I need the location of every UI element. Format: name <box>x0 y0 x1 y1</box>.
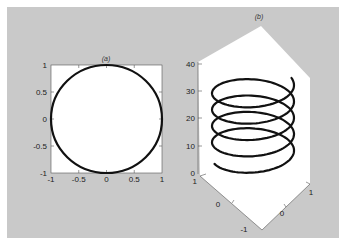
plot-a-xtick: -0.5 <box>72 175 86 184</box>
plot-b: (b) 40 30 20 10 0 1 0 -1 0 1 <box>186 13 314 234</box>
plot-a-xtick: -1 <box>47 175 55 184</box>
plot-b-xtick: 1 <box>309 188 314 197</box>
plot-a-ytick: 0.5 <box>36 88 48 97</box>
plot-b-title: (b) <box>255 13 264 21</box>
plot-b-ytick: 1 <box>193 177 198 186</box>
plot-b-ztick: 40 <box>186 60 195 69</box>
plot-a-ytick: -0.5 <box>33 142 47 151</box>
figure-canvas: (a) 1 0.5 0 -0.5 -1 -1 -0.5 0 0.5 1 (b) <box>0 0 344 242</box>
plot-b-ztick: 20 <box>186 114 195 123</box>
plot-a-ytick: -1 <box>40 169 48 178</box>
plot-a-xtick: 0 <box>104 175 109 184</box>
plot-a-ytick: 1 <box>43 61 48 70</box>
plot-a-xtick: 0.5 <box>129 175 141 184</box>
plot-b-ytick: -1 <box>240 225 248 234</box>
plot-a-xtick: 1 <box>160 175 165 184</box>
plot-b-ytick: 0 <box>216 200 221 209</box>
plot-b-xtick: 0 <box>280 209 285 218</box>
plot-b-ztick: 10 <box>186 142 195 151</box>
plot-a-title: (a) <box>102 55 111 63</box>
plot-a: (a) 1 0.5 0 -0.5 -1 -1 -0.5 0 0.5 1 <box>33 55 165 184</box>
plot-b-ztick: 30 <box>186 87 195 96</box>
plot-a-ytick: 0 <box>43 115 48 124</box>
